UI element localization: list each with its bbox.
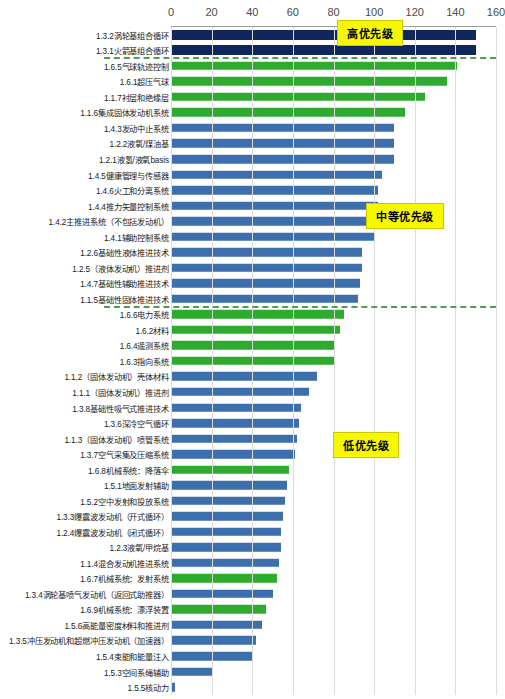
bar[interactable] bbox=[171, 621, 262, 630]
bar-category-label: 1.6.6电力系统 bbox=[120, 308, 169, 320]
bar-row[interactable]: 1.4.5健康管理与传感器 bbox=[0, 167, 502, 183]
x-tick-label: 140 bbox=[446, 6, 464, 18]
group-separator bbox=[104, 57, 496, 59]
bar-category-label: 1.4.5健康管理与传感器 bbox=[88, 169, 169, 181]
bar-row[interactable]: 1.3.4涡轮基喷气发动机（返回式助推器） bbox=[0, 586, 502, 602]
bar-row[interactable]: 1.3.5冲压发动机和超燃冲压发动机（加速器） bbox=[0, 633, 502, 649]
bar[interactable] bbox=[171, 528, 281, 537]
bar[interactable] bbox=[171, 93, 425, 102]
bar[interactable] bbox=[171, 419, 299, 428]
bar-row[interactable]: 1.4.3发动中止系统 bbox=[0, 120, 502, 136]
bar-row[interactable]: 1.2.1液氢/液氧basis bbox=[0, 151, 502, 167]
bar-row[interactable]: 1.2.4爆震波发动机（闭式循环） bbox=[0, 524, 502, 540]
bar-category-label: 1.6.8机械系统：降落伞 bbox=[88, 464, 169, 476]
bar-row[interactable]: 1.6.3指向系统 bbox=[0, 353, 502, 369]
bar-row[interactable]: 1.2.6基础性液体推进技术 bbox=[0, 244, 502, 260]
gridline bbox=[212, 27, 213, 695]
bar-row[interactable]: 1.3.1火箭基组合循环 bbox=[0, 43, 502, 59]
bar-category-label: 1.6.7机械系统：发射系统 bbox=[80, 572, 169, 584]
bar[interactable] bbox=[171, 434, 297, 443]
bar[interactable] bbox=[171, 186, 378, 195]
bar-row[interactable]: 1.1.5基础性固体推进技术 bbox=[0, 291, 502, 307]
bar-row[interactable]: 1.5.1地面发射辅助 bbox=[0, 477, 502, 493]
bar-row[interactable]: 1.3.3爆震波发动机（开式循环） bbox=[0, 508, 502, 524]
bar-row[interactable]: 1.6.4遥测系统 bbox=[0, 338, 502, 354]
priority-callout-medium: 中等优先级 bbox=[366, 203, 444, 229]
bar-row[interactable]: 1.4.1辅助控制系统 bbox=[0, 229, 502, 245]
bar-row[interactable]: 1.6.6电力系统 bbox=[0, 307, 502, 323]
bar-row[interactable]: 1.1.6集成固体发动机系统 bbox=[0, 105, 502, 121]
bar-category-label: 1.3.5冲压发动机和超燃冲压发动机（加速器） bbox=[9, 634, 169, 646]
bar-row[interactable]: 1.5.6高能量密度材料和推进剂 bbox=[0, 617, 502, 633]
bar[interactable] bbox=[171, 543, 281, 552]
bar-row[interactable]: 1.6.2材料 bbox=[0, 322, 502, 338]
bar-row[interactable]: 1.3.2涡轮基组合循环 bbox=[0, 27, 502, 43]
bar[interactable] bbox=[171, 512, 283, 521]
bar-row[interactable]: 1.2.3液氧/甲烷基 bbox=[0, 540, 502, 556]
bar[interactable] bbox=[171, 139, 394, 148]
bar-row[interactable]: 1.3.6深冷空气循环 bbox=[0, 415, 502, 431]
x-axis: 020406080100120140160 bbox=[0, 0, 502, 30]
gridline bbox=[374, 27, 375, 695]
bar[interactable] bbox=[171, 326, 340, 335]
bar-row[interactable]: 1.3.8基础性吸气式推进技术 bbox=[0, 400, 502, 416]
bar-row[interactable]: 1.5.4束能和能量注入 bbox=[0, 648, 502, 664]
bar[interactable] bbox=[171, 388, 309, 397]
bar[interactable] bbox=[171, 450, 295, 459]
bar[interactable] bbox=[171, 559, 279, 568]
bar[interactable] bbox=[171, 310, 344, 319]
x-tick-label: 80 bbox=[327, 6, 339, 18]
bar[interactable] bbox=[171, 590, 273, 599]
bar-category-label: 1.3.4涡轮基喷气发动机（返回式助推器） bbox=[25, 588, 169, 600]
bar[interactable] bbox=[171, 45, 476, 55]
bar[interactable] bbox=[171, 403, 301, 412]
bar-row[interactable]: 1.6.9机械系统：漂浮装置 bbox=[0, 602, 502, 618]
bar[interactable] bbox=[171, 279, 360, 288]
bar[interactable] bbox=[171, 465, 289, 474]
bar[interactable] bbox=[171, 155, 394, 164]
bar-category-label: 1.3.8基础性吸气式推进技术 bbox=[72, 402, 169, 414]
bar[interactable] bbox=[171, 574, 277, 583]
bar-category-label: 1.1.1（固体发动机）推进剂 bbox=[72, 386, 169, 398]
bar-row[interactable]: 1.5.5核动力 bbox=[0, 679, 502, 695]
bar-row[interactable]: 1.1.1（固体发动机）推进剂 bbox=[0, 384, 502, 400]
bar[interactable] bbox=[171, 217, 378, 226]
bar-row[interactable]: 1.5.3空间系绳辅助 bbox=[0, 664, 502, 680]
bar[interactable] bbox=[171, 170, 382, 179]
gridline bbox=[455, 27, 456, 695]
bar-category-label: 1.2.6基础性液体推进技术 bbox=[80, 246, 169, 258]
bar-category-label: 1.5.1地面发射辅助 bbox=[104, 479, 169, 491]
bar[interactable] bbox=[171, 636, 256, 645]
gridline bbox=[252, 27, 253, 695]
bar-category-label: 1.6.9机械系统：漂浮装置 bbox=[80, 603, 169, 615]
bar[interactable] bbox=[171, 667, 212, 676]
bar[interactable] bbox=[171, 201, 378, 210]
bar-row[interactable]: 1.1.3（固体发动机）喷管系统 bbox=[0, 431, 502, 447]
bar-category-label: 1.1.7衬层和绝缘层 bbox=[104, 91, 169, 103]
bar-row[interactable]: 1.6.1超压气球 bbox=[0, 74, 502, 90]
bar[interactable] bbox=[171, 481, 287, 490]
bar-row[interactable]: 1.4.7基础性辅助推进技术 bbox=[0, 276, 502, 292]
bar-row[interactable]: 1.2.5（液体发动机）推进剂 bbox=[0, 260, 502, 276]
bar-row[interactable]: 1.1.4混合发动机推进系统 bbox=[0, 555, 502, 571]
bar-row[interactable]: 1.6.7机械系统：发射系统 bbox=[0, 571, 502, 587]
bar[interactable] bbox=[171, 496, 285, 505]
x-tick-label: 40 bbox=[246, 6, 258, 18]
bar-row[interactable]: 1.4.6火工和分离系统 bbox=[0, 182, 502, 198]
bar-row[interactable]: 1.5.2空中发射和投放系统 bbox=[0, 493, 502, 509]
bar[interactable] bbox=[171, 108, 405, 117]
bar[interactable] bbox=[171, 30, 476, 40]
bar[interactable] bbox=[171, 372, 317, 381]
x-tick-label: 0 bbox=[168, 6, 174, 18]
bar-row[interactable]: 1.3.7空气采集及压缩系统 bbox=[0, 446, 502, 462]
bar-row[interactable]: 1.2.2液氧/煤油基 bbox=[0, 136, 502, 152]
bar[interactable] bbox=[171, 232, 374, 241]
bar-row[interactable]: 1.6.8机械系统：降落伞 bbox=[0, 462, 502, 478]
bar-row[interactable]: 1.1.2（固体发动机）壳体材料 bbox=[0, 369, 502, 385]
bar-row[interactable]: 1.6.5气球轨迹控制 bbox=[0, 58, 502, 74]
bar[interactable] bbox=[171, 124, 394, 133]
bar[interactable] bbox=[171, 295, 358, 304]
bar-row[interactable]: 1.1.7衬层和绝缘层 bbox=[0, 89, 502, 105]
bar-category-label: 1.6.4遥测系统 bbox=[120, 339, 169, 351]
